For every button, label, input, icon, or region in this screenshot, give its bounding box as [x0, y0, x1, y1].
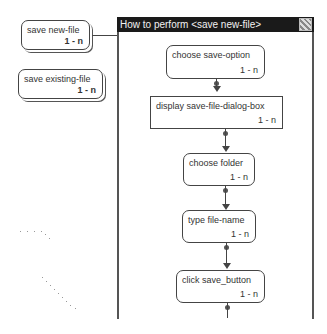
step-choose-folder[interactable]: choose folder 1 - n: [183, 153, 255, 186]
flow-arrow: [222, 146, 230, 152]
step-multiplicity: 1 - n: [231, 229, 249, 239]
step-type-file-name[interactable]: type file-name 1 - n: [182, 210, 256, 243]
flow-arrow: [223, 263, 231, 269]
window-title: How to perform <save new-file>: [120, 19, 261, 30]
step-multiplicity: 1 - n: [258, 115, 276, 125]
task-multiplicity: 1 - n: [77, 85, 96, 95]
flow-line: [226, 243, 227, 265]
flow-line: [225, 129, 226, 147]
step-multiplicity: 1 - n: [240, 65, 258, 75]
task-connector-line: [92, 35, 117, 36]
step-label: choose save-option: [172, 50, 250, 60]
step-display-save-file-dialog-box[interactable]: display save-file-dialog-box 1 - n: [150, 96, 283, 129]
close-icon[interactable]: [299, 18, 312, 31]
step-label: choose folder: [189, 158, 243, 168]
task-label: save new-file: [27, 25, 80, 35]
step-label: display save-file-dialog-box: [156, 101, 265, 111]
flow-line: [225, 186, 226, 206]
step-multiplicity: 1 - n: [240, 289, 258, 299]
flow-line: [227, 303, 228, 318]
task-label: save existing-file: [24, 74, 91, 84]
step-label: click save_button: [182, 275, 251, 285]
flow-arrow: [213, 86, 221, 92]
step-multiplicity: 1 - n: [230, 172, 248, 182]
window-titlebar[interactable]: How to perform <save new-file>: [117, 17, 314, 32]
task-multiplicity: 1 - n: [64, 36, 83, 46]
step-click-save-button[interactable]: click save_button 1 - n: [176, 270, 265, 303]
task-card-save-existing-file[interactable]: save existing-file 1 - n: [18, 69, 103, 99]
step-label: type file-name: [188, 215, 245, 225]
step-choose-save-option[interactable]: choose save-option 1 - n: [166, 45, 265, 79]
task-card-save-new-file[interactable]: save new-file 1 - n: [21, 20, 90, 50]
